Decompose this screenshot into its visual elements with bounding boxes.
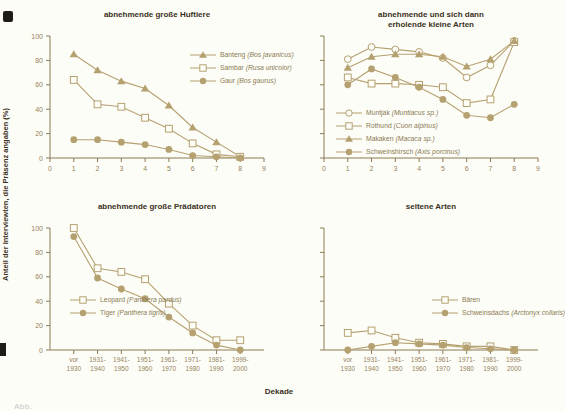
panel-title-huftiere: abnehmende große Huftiere xyxy=(50,10,264,20)
circle-marker xyxy=(213,342,220,349)
legend-label: Banteng (Bos javanicus) xyxy=(220,51,294,58)
x-tick-label: 1940 xyxy=(90,365,105,372)
x-tick-label: 1930 xyxy=(67,365,82,372)
triangle-marker xyxy=(165,102,173,109)
circle-marker xyxy=(487,62,494,69)
y-tick-label: 60 xyxy=(35,81,43,88)
circle-marker xyxy=(416,84,423,91)
circle-marker xyxy=(368,66,375,73)
x-tick-label: 1999- xyxy=(232,356,249,363)
x-tick-label: 1951- xyxy=(137,356,154,363)
x-tick-label: 2 xyxy=(96,165,100,172)
square-marker xyxy=(142,114,149,121)
circle-marker xyxy=(189,330,196,337)
x-tick-label: 1961- xyxy=(435,356,452,363)
x-tick-label: 2000 xyxy=(507,365,522,372)
circle-marker xyxy=(118,286,125,293)
x-tick-label: 3 xyxy=(393,165,397,172)
legend-label: Gaur (Bos gaurus) xyxy=(220,77,276,84)
square-marker xyxy=(368,80,375,87)
triangle-marker xyxy=(117,77,125,84)
legend-label: Bären xyxy=(462,296,480,303)
x-tick-label: vor xyxy=(343,356,353,363)
circle-marker xyxy=(142,141,149,148)
legend-item-rothund: Rothund (Cuon alpinus) xyxy=(336,119,460,132)
y-tick-label: 100 xyxy=(31,225,43,232)
circle-marker xyxy=(463,344,470,351)
circle-marker xyxy=(439,96,446,103)
legend-item-leopard: Leopard (Panthera pardus) xyxy=(70,293,182,306)
y-axis-label: Anteil der Interviewten, die Präsenz ang… xyxy=(1,78,10,312)
x-tick-label: 1971- xyxy=(184,356,201,363)
circle-marker xyxy=(118,139,125,146)
series-line-sambar xyxy=(74,80,240,157)
x-tick-label: 1960 xyxy=(412,365,427,372)
x-tick-label: 7 xyxy=(214,165,218,172)
legend-marker-icon xyxy=(336,147,362,157)
x-tick-label: 2 xyxy=(370,165,374,172)
x-tick-label: 4 xyxy=(143,165,147,172)
legend-label: Sambar (Rusa unicolor) xyxy=(220,64,292,71)
legend-item-tiger: Tiger (Panthera tigris) xyxy=(70,306,182,319)
x-tick-label: 7 xyxy=(488,165,492,172)
legend-item-sambar: Sambar (Rusa unicolor) xyxy=(190,61,294,74)
circle-marker xyxy=(94,275,101,282)
chart-canvas-kleine-arten: 0123456789 xyxy=(286,6,558,198)
circle-marker xyxy=(200,77,206,83)
legend-label: Tiger (Panthera tigris) xyxy=(100,309,165,316)
x-tick-label: vor xyxy=(69,356,79,363)
legend-item-makaken: Makaken (Macaca sp.) xyxy=(336,132,460,145)
x-tick-label: 8 xyxy=(238,165,242,172)
y-tick-label: 60 xyxy=(35,273,43,280)
x-tick-label: 1981- xyxy=(208,356,225,363)
circle-marker xyxy=(344,81,351,88)
panel-title-line: abnehmende große Prädatoren xyxy=(50,202,264,212)
panel-title-line: seltene Arten xyxy=(324,202,538,212)
x-tick-label: 4 xyxy=(417,165,421,172)
legend-item-schweinshirsch: Schweinshirsch (Axis porcinus) xyxy=(336,145,460,158)
series-line-leopard xyxy=(74,228,240,340)
x-tick-label: 1980 xyxy=(185,365,200,372)
x-tick-label: 1 xyxy=(72,165,76,172)
y-tick-label: 80 xyxy=(35,249,43,256)
y-tick-label: 80 xyxy=(35,57,43,64)
panel-title-line: abnehmende und sich dann xyxy=(324,10,538,20)
circle-marker xyxy=(463,74,470,81)
x-tick-label: 8 xyxy=(512,165,516,172)
legend-label: Schweinshirsch (Axis porcinus) xyxy=(366,148,460,155)
circle-marker xyxy=(368,343,375,350)
triangle-marker xyxy=(212,138,220,145)
legend-marker-icon xyxy=(336,134,362,144)
square-marker xyxy=(118,269,125,276)
circle-marker xyxy=(165,146,172,153)
x-tick-label: 1940 xyxy=(364,365,379,372)
series-markers-schweinsdachs xyxy=(344,339,517,353)
y-tick-label: 100 xyxy=(31,33,43,40)
square-marker xyxy=(165,125,172,132)
legend-marker-icon xyxy=(432,308,458,318)
x-tick-label: 1981- xyxy=(482,356,499,363)
square-marker xyxy=(200,64,206,70)
x-tick-label: 1 xyxy=(346,165,350,172)
y-tick-label: 20 xyxy=(35,130,43,137)
square-marker xyxy=(70,77,77,84)
circle-marker xyxy=(237,155,244,162)
legend-marker-icon xyxy=(336,121,362,131)
panel-huftiere: 0204060801000123456789 abnehmende große … xyxy=(12,6,284,198)
legend-label: Schweinsdachs (Arctonyx collaris) xyxy=(462,309,565,316)
square-marker xyxy=(344,74,351,81)
legend-kleine-arten: Muntjak (Muntiacus sp.)Rothund (Cuon alp… xyxy=(336,106,460,158)
circle-marker xyxy=(346,148,352,154)
square-marker xyxy=(118,103,125,110)
legend-item-muntjak: Muntjak (Muntiacus sp.) xyxy=(336,106,460,119)
circle-marker xyxy=(392,74,399,81)
triangle-marker xyxy=(70,50,78,57)
x-tick-label: 0 xyxy=(322,165,326,172)
triangle-marker xyxy=(93,66,101,73)
panel-title-seltene-arten: seltene Arten xyxy=(324,202,538,212)
legend-huftiere: Banteng (Bos javanicus)Sambar (Rusa unic… xyxy=(190,48,294,87)
y-tick-label: 40 xyxy=(35,106,43,113)
y-tick-label: 0 xyxy=(39,347,43,354)
square-marker xyxy=(70,225,77,232)
legend-marker-icon xyxy=(190,76,216,86)
